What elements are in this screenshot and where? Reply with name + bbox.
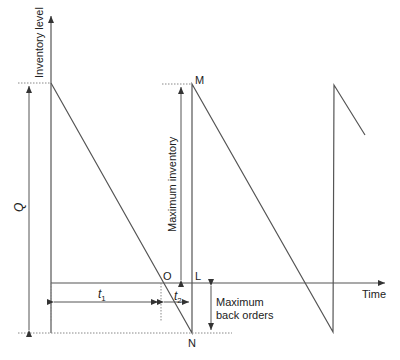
point-l: L (195, 270, 201, 282)
point-m: M (195, 74, 204, 86)
max-backorders-line2: back orders (216, 309, 274, 321)
t2-label: t2 (174, 289, 182, 305)
y-axis-label: Inventory level (33, 7, 45, 78)
point-n: N (188, 337, 196, 349)
max-backorders-line1: Maximum (216, 296, 264, 308)
max-inventory-label: Maximum inventory (166, 136, 178, 232)
point-o: O (163, 270, 172, 282)
t1-label: t1 (98, 287, 106, 303)
q-label: Q (12, 203, 26, 212)
inventory-diagram: Inventory level Time Q Maximum inventory… (0, 0, 400, 360)
time-label: Time (362, 288, 386, 300)
